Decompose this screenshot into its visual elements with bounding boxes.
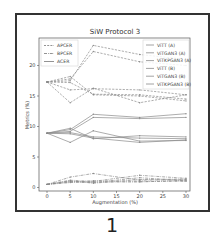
data-point: [185, 181, 186, 182]
y-tick-label: 15: [29, 93, 35, 99]
data-point: [70, 132, 71, 133]
data-point: [139, 89, 140, 90]
series-acer-13: [47, 117, 186, 133]
data-point: [185, 139, 186, 140]
data-point: [70, 128, 71, 129]
data-point: [93, 51, 94, 52]
data-point: [70, 180, 71, 181]
y-tick-label: 10: [29, 123, 35, 129]
data-point: [93, 137, 94, 138]
data-point: [185, 117, 186, 118]
x-tick-label: 0: [45, 193, 48, 199]
data-point: [139, 140, 140, 141]
data-point: [70, 89, 71, 90]
data-point: [70, 82, 71, 83]
data-point: [46, 184, 47, 185]
data-point: [139, 177, 140, 178]
x-tick-label: 5: [69, 193, 72, 199]
data-point: [139, 179, 140, 180]
model-legend-entry: ViTGAN3 (B): [157, 74, 186, 79]
data-point: [185, 100, 186, 101]
model-legend-entry: ViTKPGAN3 (A): [157, 58, 191, 63]
legend-bpcer: BPCER: [57, 51, 73, 56]
model-legend-entry: ViTKPGAN3 (B): [157, 82, 191, 87]
line-chart: SiW Protocol 3 051015202530 05101520 Aug…: [0, 0, 224, 242]
data-point: [70, 131, 71, 132]
data-point: [139, 135, 140, 136]
data-point: [93, 130, 94, 131]
data-point: [139, 102, 140, 103]
data-point: [185, 94, 186, 95]
data-point: [70, 133, 71, 134]
data-point: [139, 175, 140, 176]
data-point: [93, 117, 94, 118]
x-tick-label: 25: [160, 193, 166, 199]
data-point: [93, 180, 94, 181]
data-point: [70, 176, 71, 177]
data-point: [70, 182, 71, 183]
y-tick-label: 0: [32, 184, 35, 190]
y-axis-label: Metrics (%): [24, 101, 30, 129]
data-point: [93, 45, 94, 46]
legend-apcer: APCER: [57, 43, 73, 48]
series-acer-12: [47, 114, 186, 134]
model-legend-entry: ViTGAN3 (A): [157, 51, 186, 56]
data-point: [93, 87, 94, 88]
y-tick-label: 5: [32, 154, 35, 160]
data-point: [185, 138, 186, 139]
data-point: [46, 133, 47, 134]
data-point: [139, 61, 140, 62]
data-point: [139, 117, 140, 118]
x-axis: 051015202530: [45, 191, 189, 199]
chart-title: SiW Protocol 3: [90, 28, 140, 36]
data-point: [70, 142, 71, 143]
data-point: [93, 94, 94, 95]
x-tick-label: 30: [183, 193, 189, 199]
y-tick-label: 20: [29, 62, 35, 68]
data-point: [139, 54, 140, 55]
data-point: [139, 94, 140, 95]
data-point: [139, 181, 140, 182]
data-point: [46, 81, 47, 82]
legend-acer: ACER: [57, 59, 70, 64]
data-point: [139, 142, 140, 143]
data-point: [185, 178, 186, 179]
data-point: [93, 114, 94, 115]
data-point: [70, 129, 71, 130]
y-axis: 05101520: [29, 62, 39, 190]
data-point: [93, 136, 94, 137]
data-point: [93, 173, 94, 174]
model-legend-entry: ViTT (B): [157, 66, 175, 71]
data-point: [139, 95, 140, 96]
data-point: [93, 183, 94, 184]
data-point: [139, 118, 140, 119]
data-point: [70, 80, 71, 81]
x-axis-label: Augmentation (%): [92, 199, 138, 206]
data-point: [70, 78, 71, 79]
data-point: [185, 98, 186, 99]
data-point: [185, 113, 186, 114]
model-legend-entry: ViTT (A): [157, 43, 175, 48]
data-point: [70, 102, 71, 103]
model-legend: ViTT (A)ViTGAN3 (A)ViTKPGAN3 (A)ViTT (B)…: [143, 40, 191, 89]
metric-legend: APCER BPCER ACER: [41, 40, 78, 66]
data-point: [185, 136, 186, 137]
data-point: [70, 76, 71, 77]
figure-number: 1: [0, 214, 224, 236]
data-point: [139, 137, 140, 138]
